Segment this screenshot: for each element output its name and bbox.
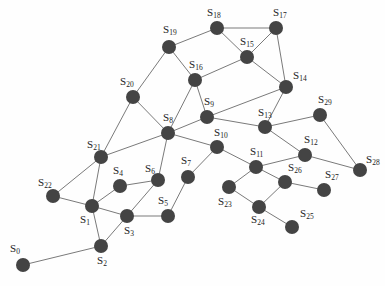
- node-s10: [210, 140, 224, 154]
- edge-s14-s9: [207, 87, 286, 117]
- edge-s0-s2: [23, 246, 101, 265]
- node-label-s2: S2: [97, 254, 107, 268]
- node-label-s4: S4: [113, 164, 123, 178]
- node-label-s7: S7: [181, 154, 191, 168]
- node-s7: [181, 170, 195, 184]
- node-s27: [317, 183, 331, 197]
- edge-s21-s8: [101, 133, 168, 157]
- node-s8: [161, 126, 175, 140]
- node-s16: [188, 73, 202, 87]
- edge-s3-s6: [127, 180, 158, 216]
- node-s1: [85, 199, 99, 213]
- edge-s17-s14: [276, 28, 286, 87]
- edge-s29-s28: [320, 115, 360, 170]
- labels-layer: S0S1S2S3S4S5S6S7S8S9S10S11S12S13S14S15S1…: [10, 6, 380, 268]
- node-label-s0: S0: [10, 242, 20, 256]
- node-s0: [16, 258, 30, 272]
- node-s22: [46, 189, 60, 203]
- node-label-s22: S22: [38, 176, 52, 190]
- node-label-s3: S3: [124, 224, 134, 238]
- node-s2: [94, 239, 108, 253]
- edge-s8-s10: [168, 133, 217, 147]
- node-s24: [252, 200, 266, 214]
- node-label-s6: S6: [145, 162, 155, 176]
- edge-s16-s15: [195, 57, 247, 80]
- edge-s6-s8: [158, 133, 168, 180]
- node-label-s9: S9: [204, 95, 214, 109]
- node-s28: [353, 163, 367, 177]
- node-s3: [120, 209, 134, 223]
- node-s18: [210, 21, 224, 35]
- node-label-s17: S17: [273, 6, 287, 20]
- edge-s16-s8: [168, 80, 195, 133]
- node-s15: [240, 50, 254, 64]
- node-s12: [298, 148, 312, 162]
- node-s13: [258, 120, 272, 134]
- node-label-s19: S19: [163, 23, 177, 37]
- edge-s20-s19: [133, 47, 169, 97]
- edge-s1-s21: [92, 157, 101, 206]
- node-label-s14: S14: [293, 69, 307, 83]
- node-label-s23: S23: [218, 195, 232, 209]
- edge-s22-s21: [53, 157, 101, 196]
- network-diagram: S0S1S2S3S4S5S6S7S8S9S10S11S12S13S14S15S1…: [0, 0, 385, 286]
- edge-s13-s12: [265, 127, 305, 155]
- node-label-s26: S26: [288, 161, 302, 175]
- node-s9: [200, 110, 214, 124]
- node-label-s5: S5: [158, 194, 168, 208]
- node-label-s24: S24: [251, 213, 265, 227]
- node-s11: [249, 160, 263, 174]
- edge-s15-s14: [247, 57, 286, 87]
- node-label-s29: S29: [318, 93, 332, 107]
- node-s17: [269, 21, 283, 35]
- node-label-s27: S27: [325, 168, 339, 182]
- node-label-s21: S21: [87, 138, 101, 152]
- node-label-s28: S28: [366, 153, 380, 167]
- node-label-s13: S13: [258, 106, 272, 120]
- node-label-s10: S10: [214, 126, 228, 140]
- node-s5: [161, 209, 175, 223]
- node-s25: [285, 220, 299, 234]
- node-label-s20: S20: [120, 75, 134, 89]
- node-label-s15: S15: [240, 35, 254, 49]
- node-s21: [94, 150, 108, 164]
- edge-s12-s28: [305, 155, 360, 170]
- graph-svg: S0S1S2S3S4S5S6S7S8S9S10S11S12S13S14S15S1…: [0, 0, 385, 286]
- node-s26: [278, 175, 292, 189]
- node-s14: [279, 80, 293, 94]
- node-s20: [126, 90, 140, 104]
- node-s19: [162, 40, 176, 54]
- node-label-s8: S8: [163, 111, 173, 125]
- node-label-s25: S25: [300, 207, 314, 221]
- node-label-s18: S18: [207, 6, 221, 20]
- node-label-s11: S11: [250, 145, 264, 159]
- node-label-s12: S12: [304, 133, 318, 147]
- edge-s21-s20: [101, 97, 133, 157]
- node-s4: [113, 179, 127, 193]
- edge-s13-s29: [265, 115, 320, 127]
- node-label-s16: S16: [189, 58, 203, 72]
- node-s23: [222, 180, 236, 194]
- node-s29: [313, 108, 327, 122]
- node-label-s1: S1: [80, 213, 90, 227]
